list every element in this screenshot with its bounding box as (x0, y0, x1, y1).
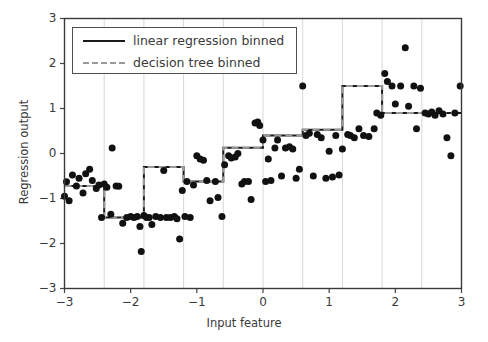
x-tick-label: 2 (375, 295, 415, 309)
y-tick-label: −3 (17, 281, 57, 295)
legend-swatch-solid-line (81, 31, 127, 51)
x-tick-label: 3 (442, 295, 482, 309)
y-tick-label: −2 (17, 236, 57, 250)
x-tick-label: 1 (309, 295, 349, 309)
legend-label-decision-tree: decision tree binned (133, 55, 261, 70)
y-axis-label: Regression output (17, 92, 31, 212)
scatter-points (61, 44, 464, 255)
x-tick-label: −1 (177, 295, 217, 309)
x-tick-label: −2 (111, 295, 151, 309)
chart-figure: −3−2−10123 −3−2−10123 Regression output … (0, 0, 488, 342)
legend-entry-decision-tree: decision tree binned (73, 51, 296, 74)
legend-swatch-dashed-line (81, 53, 127, 73)
y-tick-label: 2 (17, 56, 57, 70)
legend-label-linear-regression: linear regression binned (133, 33, 284, 48)
x-axis-label: Input feature (0, 316, 488, 330)
legend-entry-linear-regression: linear regression binned (73, 29, 296, 52)
y-tick-label: 3 (17, 11, 57, 25)
x-tick-label: 0 (243, 295, 283, 309)
chart-legend: linear regression binned decision tree b… (72, 27, 297, 74)
x-tick-label: −3 (45, 295, 85, 309)
